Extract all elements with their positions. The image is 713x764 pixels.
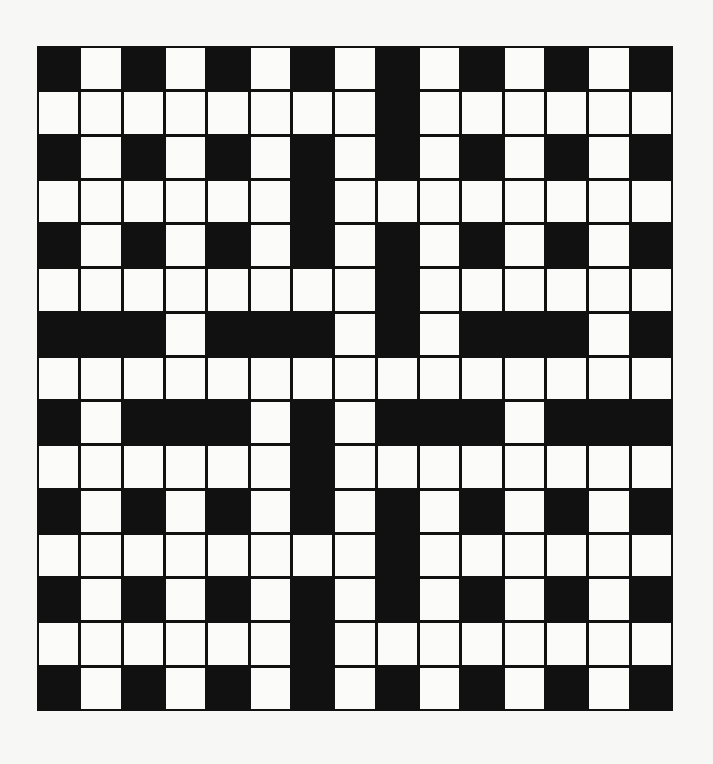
crossword-cell[interactable] <box>293 92 332 133</box>
crossword-cell[interactable] <box>589 668 628 709</box>
crossword-cell[interactable] <box>505 92 544 133</box>
crossword-cell[interactable] <box>251 181 290 222</box>
crossword-cell[interactable] <box>335 668 374 709</box>
crossword-cell[interactable] <box>420 48 459 89</box>
crossword-cell[interactable] <box>251 92 290 133</box>
crossword-cell[interactable] <box>81 535 120 576</box>
crossword-cell[interactable] <box>420 314 459 355</box>
crossword-cell[interactable] <box>420 446 459 487</box>
crossword-cell[interactable] <box>251 48 290 89</box>
crossword-cell[interactable] <box>505 535 544 576</box>
crossword-cell[interactable] <box>589 92 628 133</box>
crossword-cell[interactable] <box>208 92 247 133</box>
crossword-cell[interactable] <box>505 137 544 178</box>
crossword-cell[interactable] <box>505 269 544 310</box>
crossword-cell[interactable] <box>632 181 671 222</box>
crossword-cell[interactable] <box>589 446 628 487</box>
crossword-cell[interactable] <box>462 446 501 487</box>
crossword-cell[interactable] <box>166 623 205 664</box>
crossword-cell[interactable] <box>39 92 78 133</box>
crossword-cell[interactable] <box>378 358 417 399</box>
crossword-cell[interactable] <box>81 579 120 620</box>
crossword-cell[interactable] <box>39 269 78 310</box>
crossword-cell[interactable] <box>378 623 417 664</box>
crossword-cell[interactable] <box>632 535 671 576</box>
crossword-cell[interactable] <box>251 446 290 487</box>
crossword-cell[interactable] <box>420 269 459 310</box>
crossword-cell[interactable] <box>505 358 544 399</box>
crossword-cell[interactable] <box>81 269 120 310</box>
crossword-cell[interactable] <box>166 579 205 620</box>
crossword-cell[interactable] <box>39 623 78 664</box>
crossword-cell[interactable] <box>420 579 459 620</box>
crossword-cell[interactable] <box>166 358 205 399</box>
crossword-cell[interactable] <box>505 402 544 443</box>
crossword-cell[interactable] <box>420 535 459 576</box>
crossword-cell[interactable] <box>335 402 374 443</box>
crossword-cell[interactable] <box>166 269 205 310</box>
crossword-cell[interactable] <box>251 225 290 266</box>
crossword-cell[interactable] <box>335 181 374 222</box>
crossword-cell[interactable] <box>420 181 459 222</box>
crossword-cell[interactable] <box>81 623 120 664</box>
crossword-cell[interactable] <box>251 402 290 443</box>
crossword-cell[interactable] <box>589 623 628 664</box>
crossword-cell[interactable] <box>632 358 671 399</box>
crossword-cell[interactable] <box>124 535 163 576</box>
crossword-cell[interactable] <box>505 579 544 620</box>
crossword-cell[interactable] <box>335 579 374 620</box>
crossword-cell[interactable] <box>251 269 290 310</box>
crossword-cell[interactable] <box>462 181 501 222</box>
crossword-cell[interactable] <box>166 92 205 133</box>
crossword-cell[interactable] <box>251 535 290 576</box>
crossword-cell[interactable] <box>251 137 290 178</box>
crossword-cell[interactable] <box>505 225 544 266</box>
crossword-cell[interactable] <box>335 48 374 89</box>
crossword-cell[interactable] <box>589 358 628 399</box>
crossword-cell[interactable] <box>547 623 586 664</box>
crossword-cell[interactable] <box>81 402 120 443</box>
crossword-cell[interactable] <box>632 92 671 133</box>
crossword-cell[interactable] <box>208 446 247 487</box>
crossword-cell[interactable] <box>462 269 501 310</box>
crossword-cell[interactable] <box>208 358 247 399</box>
crossword-cell[interactable] <box>378 446 417 487</box>
crossword-cell[interactable] <box>589 225 628 266</box>
crossword-cell[interactable] <box>420 358 459 399</box>
crossword-cell[interactable] <box>335 358 374 399</box>
crossword-cell[interactable] <box>335 314 374 355</box>
crossword-cell[interactable] <box>124 92 163 133</box>
crossword-cell[interactable] <box>251 579 290 620</box>
crossword-cell[interactable] <box>335 137 374 178</box>
crossword-cell[interactable] <box>166 137 205 178</box>
crossword-cell[interactable] <box>505 491 544 532</box>
crossword-cell[interactable] <box>208 269 247 310</box>
crossword-cell[interactable] <box>335 446 374 487</box>
crossword-cell[interactable] <box>632 446 671 487</box>
crossword-cell[interactable] <box>208 535 247 576</box>
crossword-cell[interactable] <box>547 358 586 399</box>
crossword-cell[interactable] <box>335 225 374 266</box>
crossword-cell[interactable] <box>166 491 205 532</box>
crossword-cell[interactable] <box>589 579 628 620</box>
crossword-cell[interactable] <box>251 358 290 399</box>
crossword-cell[interactable] <box>251 491 290 532</box>
crossword-cell[interactable] <box>589 491 628 532</box>
crossword-cell[interactable] <box>251 668 290 709</box>
crossword-cell[interactable] <box>81 446 120 487</box>
crossword-cell[interactable] <box>124 446 163 487</box>
crossword-cell[interactable] <box>293 535 332 576</box>
crossword-cell[interactable] <box>166 181 205 222</box>
crossword-cell[interactable] <box>335 535 374 576</box>
crossword-cell[interactable] <box>335 491 374 532</box>
crossword-cell[interactable] <box>81 92 120 133</box>
crossword-cell[interactable] <box>462 358 501 399</box>
crossword-cell[interactable] <box>547 269 586 310</box>
crossword-cell[interactable] <box>335 623 374 664</box>
crossword-cell[interactable] <box>81 358 120 399</box>
crossword-cell[interactable] <box>166 225 205 266</box>
crossword-cell[interactable] <box>335 269 374 310</box>
crossword-cell[interactable] <box>81 491 120 532</box>
crossword-cell[interactable] <box>39 446 78 487</box>
crossword-cell[interactable] <box>251 623 290 664</box>
